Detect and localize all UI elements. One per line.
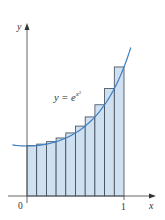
x-axis-label: x <box>148 200 154 211</box>
y-axis-arrow-icon <box>25 23 30 30</box>
x-axis-arrow-icon <box>149 194 156 199</box>
y-axis-label: y <box>16 21 22 32</box>
rectangles <box>27 67 124 196</box>
rectangle-2 <box>37 144 47 196</box>
riemann-sum-chart: y x 0 1 y = ex2 <box>0 0 165 220</box>
rectangle-5 <box>66 133 76 196</box>
function-label-exponent-power: 2 <box>79 90 82 95</box>
rectangle-6 <box>76 126 86 196</box>
rectangle-1 <box>27 146 37 196</box>
rectangle-7 <box>85 117 95 196</box>
x-tick-label-1: 1 <box>121 202 126 212</box>
function-label: y = ex2 <box>53 90 82 104</box>
origin-label: 0 <box>18 201 23 211</box>
rectangle-8 <box>95 105 105 196</box>
function-label-base: y = e <box>53 92 76 103</box>
rectangle-4 <box>56 138 66 196</box>
rectangle-3 <box>46 142 56 196</box>
rectangle-9 <box>105 89 115 196</box>
